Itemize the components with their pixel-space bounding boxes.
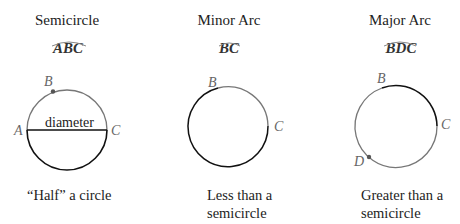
label-b: B (208, 75, 217, 90)
major-arc-figure: B C D (353, 71, 451, 169)
label-c: C (274, 119, 284, 134)
lower-semicircle-arc (27, 130, 107, 170)
diameter-label: diameter (45, 115, 94, 130)
arcs-diagram: B A C diameter B C B C D (0, 0, 460, 224)
minor-arc-bc (382, 86, 437, 126)
minor-arc-figure: B C (188, 75, 284, 167)
arc-symbol-bc (219, 43, 240, 46)
label-c: C (111, 123, 121, 138)
arc-symbol-bdc (384, 42, 416, 46)
label-d: D (353, 154, 364, 169)
label-c: C (441, 117, 451, 132)
point-b (51, 89, 55, 93)
semicircle-figure: B A C diameter (13, 74, 121, 170)
label-b: B (44, 74, 53, 89)
minor-arc-bc (218, 87, 268, 126)
remaining-arc (188, 88, 268, 167)
point-d (367, 155, 371, 159)
label-b: B (377, 71, 386, 86)
label-a: A (13, 123, 23, 138)
arc-symbol-abc (52, 42, 86, 46)
